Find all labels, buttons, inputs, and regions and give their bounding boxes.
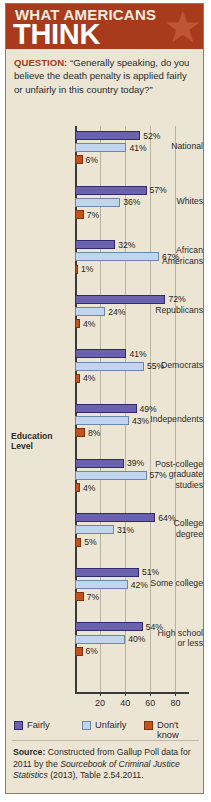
bar-dont_know <box>75 210 84 219</box>
infographic-page: ★ WHAT AMERICANS THINK QUESTION: “Genera… <box>0 0 211 802</box>
bar-value-unfairly: 31% <box>117 526 134 535</box>
category-label-line: Whites <box>137 196 203 207</box>
category-label-line: High school <box>137 628 203 639</box>
bar-dont_know <box>75 374 80 383</box>
category-label: Democrats <box>137 360 203 371</box>
divider <box>12 740 199 741</box>
bar-fairly <box>75 131 140 140</box>
category-label-line: Americans <box>137 256 203 267</box>
legend-swatch-unfairly <box>82 721 91 730</box>
bar-dont_know <box>75 265 78 274</box>
x-tick-label-40: 40 <box>120 698 130 708</box>
category-label-line: degree <box>137 529 203 540</box>
bar-value-dont_know: 1% <box>81 265 93 274</box>
bar-dont_know <box>75 483 80 492</box>
bar-fairly <box>75 568 139 577</box>
legend-swatch-don-t-know <box>144 721 153 730</box>
category-label-line: or less <box>137 638 203 649</box>
x-tick-label-20: 20 <box>95 698 105 708</box>
x-tick-80 <box>175 692 176 696</box>
bar-value-fairly: 41% <box>129 350 146 359</box>
bar-unfairly <box>75 635 125 644</box>
category-label-line: College <box>137 518 203 529</box>
bar-fairly <box>75 349 126 358</box>
category-label: National <box>137 141 203 152</box>
education-level-header-line: Education <box>11 431 53 442</box>
category-label-line: Post-college <box>137 459 203 470</box>
bar-value-fairly: 72% <box>168 295 185 304</box>
legend-label-fairly: Fairly <box>27 720 50 730</box>
education-level-header: EducationLevel <box>11 431 53 452</box>
category-label-line: National <box>137 141 203 152</box>
bar-fairly <box>75 459 124 468</box>
x-tick-40 <box>125 692 126 696</box>
legend-label-don-t-know: Don't know <box>157 720 199 740</box>
category-label-line: African <box>137 245 203 256</box>
bar-fairly <box>75 622 143 631</box>
bar-value-dont_know: 6% <box>86 647 98 656</box>
bar-value-dont_know: 8% <box>88 429 100 438</box>
bar-unfairly <box>75 525 114 534</box>
legend-label-unfairly: Unfairly <box>95 720 127 730</box>
header-banner: ★ WHAT AMERICANS THINK <box>6 4 203 49</box>
category-label-line: Some college <box>137 578 203 589</box>
bar-unfairly <box>75 416 129 425</box>
gridline-80 <box>175 126 176 692</box>
x-tick-label-80: 80 <box>170 698 180 708</box>
category-label: Collegedegree <box>137 518 203 539</box>
category-label: Independents <box>137 414 203 425</box>
bar-chart: 20406080 52%41%6%National57%36%7%Whites3… <box>6 126 203 706</box>
category-label-line: Independents <box>137 414 203 425</box>
bar-value-dont_know: 6% <box>86 156 98 165</box>
bar-dont_know <box>75 319 80 328</box>
bar-dont_know <box>75 647 83 656</box>
bar-dont_know <box>75 428 85 437</box>
x-tick-20 <box>100 692 101 696</box>
bar-dont_know <box>75 155 83 164</box>
chart-legend: FairlyUnfairlyDon't know <box>14 718 199 734</box>
category-label: Republicans <box>137 305 203 316</box>
bar-value-dont_know: 5% <box>84 538 96 547</box>
bar-value-fairly: 32% <box>118 241 135 250</box>
bar-unfairly <box>75 307 105 316</box>
bar-value-dont_know: 4% <box>83 374 95 383</box>
star-icon: ★ <box>163 5 203 49</box>
bar-value-dont_know: 4% <box>83 320 95 329</box>
category-label-line: studies <box>137 480 203 491</box>
bar-fairly <box>75 240 115 249</box>
bar-unfairly <box>75 198 120 207</box>
bar-unfairly <box>75 471 147 480</box>
bar-unfairly <box>75 580 128 589</box>
x-tick-label-60: 60 <box>145 698 155 708</box>
education-level-header-line: Level <box>11 441 53 452</box>
source-label: Source: <box>13 747 45 757</box>
category-label-line: graduate <box>137 469 203 480</box>
category-label: Whites <box>137 196 203 207</box>
source-note: Source: Constructed from Gallup Poll dat… <box>13 747 199 782</box>
bar-value-dont_know: 4% <box>83 484 95 493</box>
legend-swatch-fairly <box>14 721 23 730</box>
category-label: AfricanAmericans <box>137 245 203 266</box>
bar-unfairly <box>75 362 144 371</box>
bar-dont_know <box>75 538 81 547</box>
category-label: High schoolor less <box>137 628 203 649</box>
banner-line-2: THINK <box>13 18 100 49</box>
question-label: QUESTION: <box>14 57 67 68</box>
category-label-line: Republicans <box>137 305 203 316</box>
bar-value-unfairly: 24% <box>108 308 125 317</box>
bar-value-dont_know: 7% <box>87 593 99 602</box>
bar-value-fairly: 52% <box>143 132 160 141</box>
bar-fairly <box>75 404 137 413</box>
bar-value-fairly: 49% <box>140 405 157 414</box>
x-tick-60 <box>150 692 151 696</box>
category-label-line: Democrats <box>137 360 203 371</box>
bar-dont_know <box>75 592 84 601</box>
bar-fairly <box>75 186 147 195</box>
x-axis-line <box>75 692 189 694</box>
category-label: Post-collegegraduatestudies <box>137 459 203 491</box>
bar-unfairly <box>75 143 126 152</box>
bar-value-fairly: 57% <box>150 186 167 195</box>
bar-value-fairly: 51% <box>142 568 159 577</box>
category-label: Some college <box>137 578 203 589</box>
question-block: QUESTION: “Generally speaking, do you be… <box>14 56 197 96</box>
